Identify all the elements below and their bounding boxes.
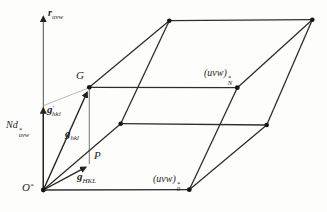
plane-N-label-scripts: *N (228, 75, 232, 85)
origin-label-sup: * (30, 182, 34, 190)
edge-lower-plane-back (121, 124, 267, 125)
middle-back-left-dot (118, 121, 123, 126)
upper-back-left-dot (167, 18, 172, 23)
edge-lower-plane-right (189, 125, 266, 190)
upper-back-right-dot (310, 17, 315, 22)
edge-prism-back-left (121, 21, 170, 124)
plane-N-label-sub: N (228, 80, 232, 85)
g-prime-hkl-label-sub: hkl (52, 110, 61, 118)
plane-N-label: (uvw)*N (204, 68, 232, 85)
origin-dot (41, 188, 46, 193)
reciprocal-lattice-diagram: ruvw G (uvw)*N g′hkl Nd*uvw ghkl P gHKL … (0, 0, 327, 212)
point-G-label: G (76, 70, 84, 81)
Nd-star-uvw-label-base: Nd (6, 119, 18, 130)
plane-0-label: (uvw)*0 (153, 174, 180, 191)
Nd-star-uvw-label-scripts: *uvw (19, 127, 29, 137)
zone-axis-label-sub: uvw (52, 13, 63, 21)
g-HKL-label-sub: HKL (83, 177, 97, 185)
plane-0-label-sub: 0 (177, 186, 180, 191)
g-hkl-label: ghkl (65, 128, 79, 142)
edge-upper-plane-right (237, 20, 312, 88)
g-HKL-label: gHKL (77, 171, 96, 185)
point-P-label: P (94, 150, 101, 161)
zone-axis-label: ruvw (48, 8, 63, 21)
Nd-star-uvw-label-sub: uvw (19, 132, 29, 137)
g-prime-hkl-label: g′hkl (47, 104, 61, 118)
edge-upper-plane-left (89, 21, 169, 88)
point-P-label-base: P (94, 149, 101, 161)
g-hkl-label-sub: hkl (71, 134, 80, 142)
edge-prism-front-right (189, 88, 237, 190)
lattice-point-G-dot (87, 85, 92, 90)
plane-0-label-scripts: *0 (177, 181, 180, 191)
point-G-label-base: G (76, 69, 84, 81)
edge-upper-plane-back (169, 20, 312, 21)
plane-N-label-base: (uvw) (204, 67, 227, 78)
plane-N-point-dot (235, 85, 240, 90)
plane-0-point-dot (187, 187, 192, 192)
middle-back-right-dot (264, 123, 269, 128)
edge-prism-back-right (267, 20, 313, 125)
plane-0-label-base: (uvw) (153, 173, 176, 184)
Nd-star-uvw-label: Nd*uvw (6, 120, 29, 137)
origin-label-base: O (22, 181, 30, 193)
origin-label: O* (22, 182, 33, 193)
